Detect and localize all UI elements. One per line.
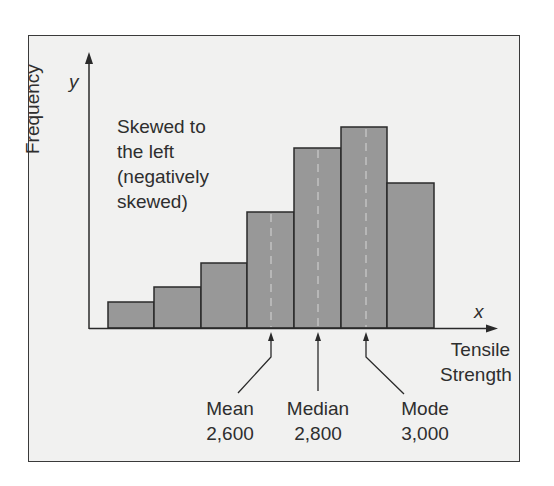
annotation-line-4: skewed) <box>117 189 209 214</box>
mean-value: 2,600 <box>180 421 280 446</box>
y-axis-label: Frequency <box>22 64 44 154</box>
annotation-line-3: (negatively <box>117 164 209 189</box>
mode-arrow-icon <box>363 332 369 341</box>
bar-2 <box>154 287 201 328</box>
mean-marker: Mean 2,600 <box>180 396 280 446</box>
median-label: Median <box>273 396 363 421</box>
pointer-lines <box>238 340 404 394</box>
bar-6 <box>341 127 387 328</box>
y-axis-symbol: y <box>69 71 79 93</box>
x-axis-arrow-icon <box>486 325 498 333</box>
bar-1 <box>108 302 154 328</box>
mode-marker: Mode 3,000 <box>385 396 465 446</box>
median-value: 2,800 <box>273 421 363 446</box>
mean-arrow-icon <box>268 332 274 341</box>
median-arrow-icon <box>315 332 321 341</box>
bar-7 <box>387 183 434 328</box>
x-axis-label-text: Tensile Strength <box>440 337 510 387</box>
mode-label: Mode <box>385 396 465 421</box>
annotation-line-1: Skewed to <box>117 114 209 139</box>
x-axis-symbol: x <box>474 301 484 323</box>
bar-3 <box>201 263 247 328</box>
annotation-line-2: the left <box>117 139 209 164</box>
y-axis-arrow-icon <box>85 52 93 64</box>
skew-annotation: Skewed to the left (negatively skewed) <box>117 114 209 214</box>
median-marker: Median 2,800 <box>273 396 363 446</box>
mean-label: Mean <box>180 396 280 421</box>
pointer-arrowheads <box>268 332 369 341</box>
mode-value: 3,000 <box>385 421 465 446</box>
x-axis-label: Tensile Strength <box>400 337 510 387</box>
